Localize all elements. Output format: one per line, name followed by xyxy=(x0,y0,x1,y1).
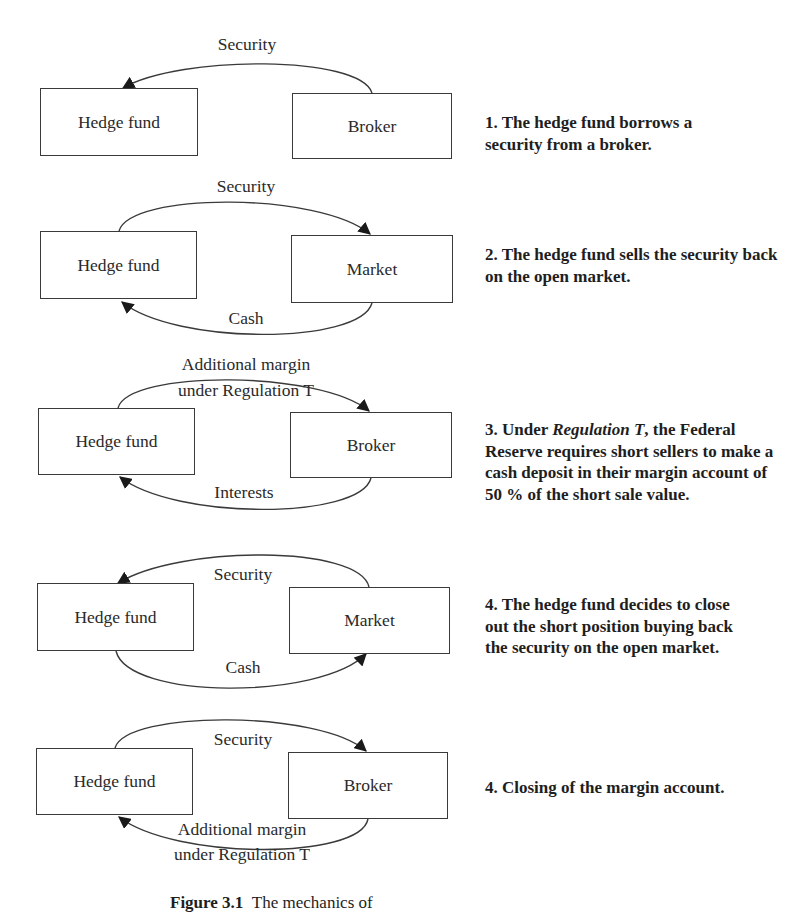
box-label: Market xyxy=(347,259,398,280)
caption-italic-term: Regulation T xyxy=(552,420,644,439)
caption-step2: 2. The hedge fund sells the security bac… xyxy=(485,244,790,287)
box-label: Broker xyxy=(347,435,396,456)
market-box-step4: Market xyxy=(289,587,450,654)
figure-caption: Figure 3.1 The mechanics of xyxy=(170,893,373,913)
hedge-fund-box-step2: Hedge fund xyxy=(40,231,197,299)
box-label: Broker xyxy=(344,775,393,796)
hedge-fund-box-step3: Hedge fund xyxy=(38,408,195,475)
broker-box-step5: Broker xyxy=(288,752,448,819)
caption-prefix: 3. Under xyxy=(485,420,552,439)
box-label: Market xyxy=(344,610,395,631)
caption-step5: 4. Closing of the margin account. xyxy=(485,777,805,799)
flow-label-cash-step4: Cash xyxy=(226,656,261,678)
caption-step3: 3. Under Regulation T, the Federal Reser… xyxy=(485,419,785,505)
flow-label-security-step1: Security xyxy=(218,33,276,55)
hedge-fund-box-step5: Hedge fund xyxy=(36,748,193,815)
box-label: Hedge fund xyxy=(73,771,155,792)
flow-label-security-step2: Security xyxy=(217,175,275,197)
market-box-step2: Market xyxy=(291,235,453,303)
flow-label-margin-line2-step5: under Regulation T xyxy=(174,843,310,865)
box-label: Broker xyxy=(348,116,397,137)
broker-box-step1: Broker xyxy=(292,93,452,159)
flow-label-security-step5: Security xyxy=(214,728,272,750)
caption-step4: 4. The hedge fund decides to close out t… xyxy=(485,594,745,659)
box-label: Hedge fund xyxy=(78,112,160,133)
arrow-security-step2 xyxy=(119,202,370,234)
figure-number: Figure 3.1 xyxy=(170,893,243,912)
flow-label-security-step4: Security xyxy=(214,563,272,585)
hedge-fund-box-step4: Hedge fund xyxy=(37,583,194,651)
box-label: Hedge fund xyxy=(77,255,159,276)
box-label: Hedge fund xyxy=(75,431,157,452)
flow-label-interests-step3: Interests xyxy=(214,481,273,503)
caption-step1: 1. The hedge fund borrows a security fro… xyxy=(485,112,695,155)
flow-label-margin-line1-step5: Additional margin xyxy=(178,818,306,840)
flow-label-margin-line1-step3: Additional margin xyxy=(182,353,310,375)
flow-label-cash-step2: Cash xyxy=(229,307,264,329)
broker-box-step3: Broker xyxy=(290,412,452,478)
box-label: Hedge fund xyxy=(74,607,156,628)
hedge-fund-box-step1: Hedge fund xyxy=(40,88,198,156)
flow-label-margin-line2-step3: under Regulation T xyxy=(178,379,314,401)
figure-caption-text: The mechanics of xyxy=(252,893,373,912)
